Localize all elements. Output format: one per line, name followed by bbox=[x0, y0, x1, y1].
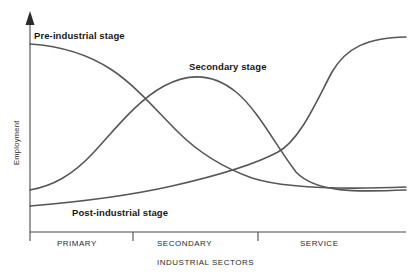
series-label-secondary: Secondary stage bbox=[189, 62, 267, 72]
series-label-pre-industrial: Pre-industrial stage bbox=[34, 31, 125, 41]
chart-canvas bbox=[0, 0, 415, 274]
x-axis-category-service: SERVICE bbox=[300, 240, 338, 248]
x-axis-category-secondary: SECONDARY bbox=[157, 240, 212, 248]
series-label-post-industrial: Post-industrial stage bbox=[72, 208, 168, 218]
x-axis-category-primary: PRIMARY bbox=[57, 240, 97, 248]
x-axis-title: INDUSTRIAL SECTORS bbox=[157, 259, 254, 267]
employment-sector-chart: Pre-industrial stage Secondary stage Pos… bbox=[0, 0, 415, 274]
y-axis-title: Employment bbox=[13, 120, 21, 165]
